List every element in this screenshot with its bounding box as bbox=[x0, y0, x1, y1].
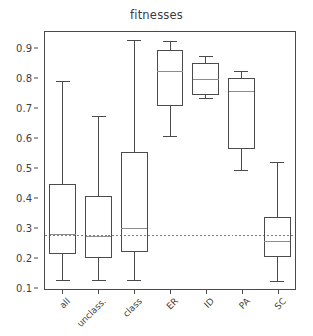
y-tick-label: 0.2 bbox=[16, 253, 32, 264]
box-iqr bbox=[193, 63, 219, 94]
x-tick-label: all bbox=[65, 289, 80, 304]
y-tick-label: 0.8 bbox=[16, 72, 32, 83]
y-tick-label: 0.1 bbox=[16, 283, 32, 294]
x-tick-label-text: all bbox=[58, 296, 73, 311]
x-tick-label-text: ID bbox=[202, 296, 216, 310]
plot-axes-frame bbox=[44, 31, 296, 290]
y-axis-tick-labels: 0.10.20.30.40.50.60.70.80.9 bbox=[0, 31, 38, 290]
y-tick-mark bbox=[34, 258, 38, 259]
y-tick-mark bbox=[34, 47, 38, 48]
x-tick-mark bbox=[62, 290, 63, 294]
box-iqr bbox=[121, 152, 147, 251]
x-tick-mark bbox=[206, 290, 207, 294]
x-tick-label: ID bbox=[209, 289, 223, 303]
y-tick-mark bbox=[34, 198, 38, 199]
x-tick-mark bbox=[278, 290, 279, 294]
box-iqr bbox=[157, 51, 183, 105]
x-tick-label-text: class bbox=[121, 296, 144, 319]
y-tick-mark bbox=[34, 137, 38, 138]
y-tick-label: 0.5 bbox=[16, 163, 32, 174]
chart-title: fitnesses bbox=[0, 8, 313, 22]
box-iqr bbox=[229, 78, 255, 148]
boxplot-svg bbox=[45, 32, 295, 289]
y-tick-label: 0.7 bbox=[16, 102, 32, 113]
box-iqr bbox=[50, 184, 76, 253]
x-tick-label-text: unclass. bbox=[75, 296, 108, 329]
y-tick-mark bbox=[34, 77, 38, 78]
x-tick-mark bbox=[170, 290, 171, 294]
x-tick-label: PA bbox=[245, 288, 260, 303]
boxplot-figure: fitnesses 0.10.20.30.40.50.60.70.80.9 al… bbox=[0, 0, 313, 336]
x-tick-mark bbox=[134, 290, 135, 294]
plot-area bbox=[45, 32, 295, 289]
x-tick-mark bbox=[242, 290, 243, 294]
y-tick-label: 0.9 bbox=[16, 42, 32, 53]
x-tick-mark bbox=[98, 290, 99, 294]
x-tick-label-text: ER bbox=[165, 296, 181, 312]
y-tick-label: 0.4 bbox=[16, 193, 32, 204]
box-iqr bbox=[86, 196, 112, 257]
y-tick-label: 0.3 bbox=[16, 223, 32, 234]
box-iqr bbox=[264, 218, 290, 257]
x-tick-label-text: PA bbox=[237, 296, 252, 311]
y-tick-mark bbox=[34, 107, 38, 108]
y-tick-mark bbox=[34, 168, 38, 169]
y-tick-label: 0.6 bbox=[16, 132, 32, 143]
y-tick-mark bbox=[34, 288, 38, 289]
x-tick-label-text: SC bbox=[273, 296, 289, 312]
y-tick-mark bbox=[34, 228, 38, 229]
